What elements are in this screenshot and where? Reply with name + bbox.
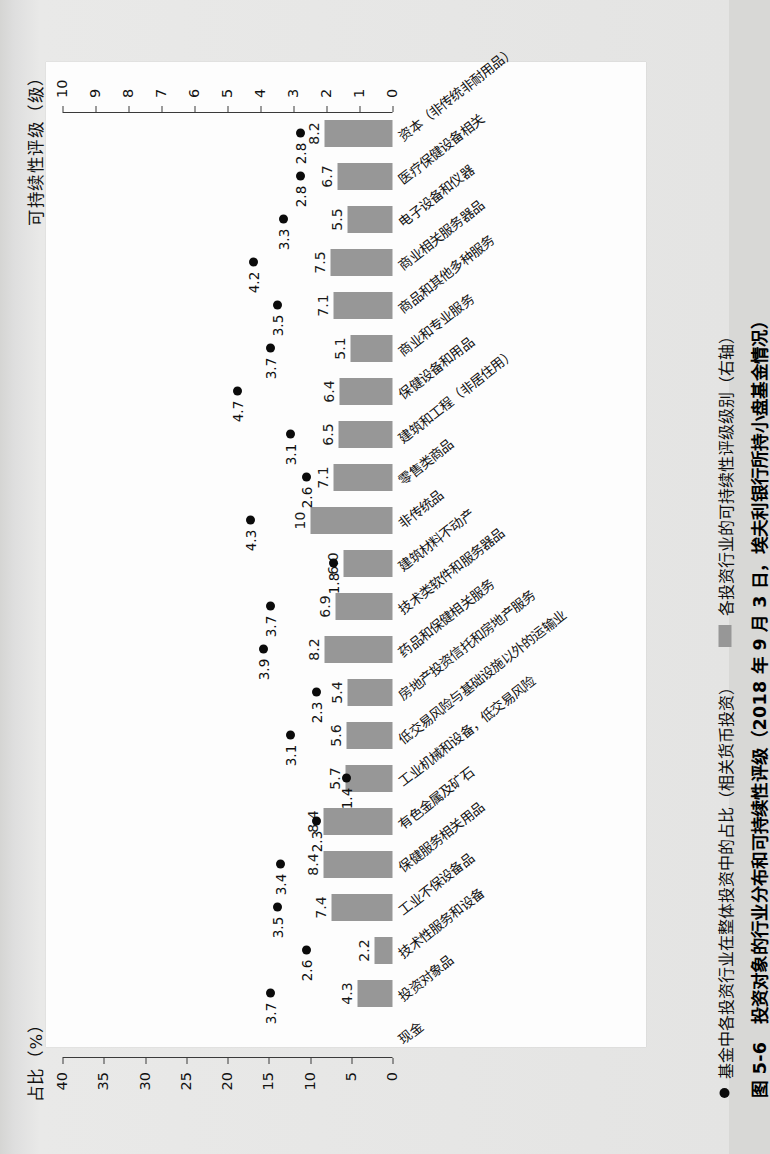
category-label: 药品和保健相关服务 bbox=[396, 577, 497, 660]
dot-value-label: 3.5 bbox=[269, 917, 285, 938]
bar bbox=[323, 808, 392, 835]
bar bbox=[337, 163, 392, 190]
data-point-dot bbox=[249, 258, 258, 267]
bar bbox=[347, 206, 392, 233]
chart-category-column: 5.13.7 bbox=[62, 327, 392, 370]
chart-category-column: 104.3 bbox=[62, 499, 392, 542]
right-axis-tick-label: 10 bbox=[53, 80, 69, 98]
chart-category-column: 33.3 bbox=[62, 1015, 392, 1058]
data-point-dot bbox=[275, 860, 284, 869]
dot-value-label: 1.8 bbox=[325, 573, 341, 594]
data-point-dot bbox=[328, 559, 337, 568]
left-axis-tick-label: 35 bbox=[94, 1072, 110, 1090]
right-axis-tick-label: 5 bbox=[218, 89, 234, 98]
bar bbox=[374, 937, 392, 964]
category-label: 现金 bbox=[396, 1020, 425, 1047]
chart-category-column: 8.23.9 bbox=[62, 628, 392, 671]
bar-value-label: 4.3 bbox=[338, 982, 354, 1004]
left-axis-tick-label: 15 bbox=[259, 1072, 275, 1090]
bar-value-label: 6.5 bbox=[319, 423, 335, 445]
bar bbox=[343, 550, 393, 577]
chart-category-column: 8.22.8 bbox=[62, 112, 392, 155]
chart-category-column: 4.33.7 bbox=[62, 972, 392, 1015]
chart-category-column: 7.54.2 bbox=[62, 241, 392, 284]
left-axis-tick bbox=[103, 1058, 104, 1064]
left-axis-tick-label: 20 bbox=[218, 1072, 234, 1090]
chart-category-column: 6.93.7 bbox=[62, 585, 392, 628]
left-axis-tick bbox=[145, 1058, 146, 1064]
dot-value-label: 2.8 bbox=[292, 186, 308, 207]
right-axis-tick-label: 2 bbox=[317, 89, 333, 98]
bar bbox=[346, 722, 392, 749]
data-point-dot bbox=[302, 473, 311, 482]
chart-category-column: 5.63.1 bbox=[62, 714, 392, 757]
right-axis-tick-label: 6 bbox=[185, 89, 201, 98]
bar bbox=[330, 249, 392, 276]
data-point-dot bbox=[265, 602, 274, 611]
bar-value-label: 7.4 bbox=[312, 896, 328, 918]
left-axis-tick bbox=[62, 1058, 63, 1064]
category-axis-labels: 现金投资对象品技术性服务和设备工业不保设备品保健服务相关用品有色金属及矿石工业机… bbox=[396, 112, 696, 1058]
data-point-dot bbox=[302, 946, 311, 955]
chart-category-column: 6.01.8 bbox=[62, 542, 392, 585]
bar bbox=[310, 507, 393, 534]
bar bbox=[339, 378, 392, 405]
bar-value-label: 7.5 bbox=[311, 251, 327, 273]
data-point-dot bbox=[285, 430, 294, 439]
dot-value-label: 3.7 bbox=[262, 358, 278, 379]
bar bbox=[324, 636, 392, 663]
dot-value-label: 4.2 bbox=[245, 272, 261, 293]
bar bbox=[335, 593, 392, 620]
left-axis-tick bbox=[310, 1058, 311, 1064]
legend-label-series1: 基金中各投资行业在整体投资中的占比（相关货币投资） bbox=[712, 679, 736, 1079]
dot-marker-icon bbox=[719, 1088, 729, 1098]
data-point-dot bbox=[341, 774, 350, 783]
chart-category-column: 5.53.3 bbox=[62, 198, 392, 241]
left-axis-tick bbox=[186, 1058, 187, 1064]
left-axis-tick bbox=[268, 1058, 269, 1064]
data-point-dot bbox=[259, 645, 268, 654]
bar bbox=[333, 292, 392, 319]
dot-value-label: 2.6 bbox=[298, 960, 314, 981]
right-axis-tick-label: 7 bbox=[152, 89, 168, 98]
bar-value-label: 7.1 bbox=[314, 466, 330, 488]
bar bbox=[333, 464, 392, 491]
bar-value-label: 10 bbox=[291, 512, 307, 530]
right-axis-tick-label: 0 bbox=[383, 89, 399, 98]
left-axis-tick-label: 40 bbox=[53, 1072, 69, 1090]
dot-value-label: 3.1 bbox=[282, 745, 298, 766]
dot-value-label: 3.7 bbox=[262, 1003, 278, 1024]
bar-value-label: 6.7 bbox=[318, 165, 334, 187]
chart-category-column: 5.42.3 bbox=[62, 671, 392, 714]
chart-category-column: 6.72.8 bbox=[62, 155, 392, 198]
bar bbox=[323, 851, 392, 878]
data-point-dot bbox=[272, 903, 281, 912]
bar bbox=[338, 421, 392, 448]
data-point-dot bbox=[246, 516, 255, 525]
right-axis-tick-label: 8 bbox=[119, 89, 135, 98]
bar bbox=[331, 894, 392, 921]
bar-value-label: 8.4 bbox=[304, 853, 320, 875]
data-point-dot bbox=[232, 387, 241, 396]
left-axis-tick bbox=[392, 1058, 393, 1064]
plot-area: 0510152025303540 012345678910 33.34.33.7… bbox=[62, 112, 392, 1058]
data-point-dot bbox=[312, 688, 321, 697]
bar bbox=[357, 980, 392, 1007]
bar-value-label: 5.1 bbox=[331, 337, 347, 359]
data-point-dot bbox=[265, 344, 274, 353]
bar-value-label: 5.4 bbox=[328, 681, 344, 703]
bar-value-label: 7.1 bbox=[314, 294, 330, 316]
dot-value-label: 3.1 bbox=[282, 444, 298, 465]
data-point-dot bbox=[295, 129, 304, 138]
dot-value-label: 2.6 bbox=[298, 487, 314, 508]
left-axis-tick-label: 30 bbox=[136, 1072, 152, 1090]
figure-caption: 图 5-6 投资对象的行业分布和可持续性评级（2018 年 9 月 3 日，埃夫… bbox=[745, 312, 770, 1098]
dot-value-label: 3.4 bbox=[272, 874, 288, 895]
left-axis-tick-label: 25 bbox=[177, 1072, 193, 1090]
chart-category-column: 5.71.4 bbox=[62, 757, 392, 800]
chart-category-column: 2.22.6 bbox=[62, 929, 392, 972]
right-axis-tick-label: 9 bbox=[86, 89, 102, 98]
category-label: 非传统品 bbox=[396, 488, 445, 531]
chart-category-column: 6.44.7 bbox=[62, 370, 392, 413]
